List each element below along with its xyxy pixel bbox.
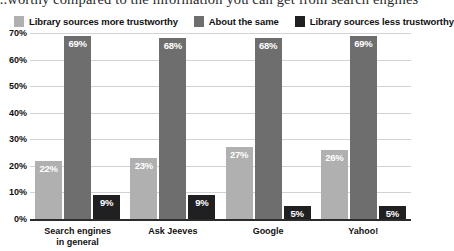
cut-off-caption: ...worthy compared to the information yo… xyxy=(0,0,419,11)
y-axis-tick-label: 40% xyxy=(0,108,27,118)
x-axis-baseline xyxy=(30,219,411,221)
y-axis-tick-label: 70% xyxy=(0,28,27,38)
bar-value-label: 5% xyxy=(290,208,303,219)
bar[interactable]: 23% xyxy=(130,158,157,219)
legend-swatch-icon-0 xyxy=(14,16,24,27)
bar-value-label: 9% xyxy=(100,197,113,208)
bar-group-2: 27%68%5% xyxy=(221,33,316,219)
bar-value-label: 5% xyxy=(386,208,399,219)
bar[interactable]: 26% xyxy=(321,150,348,219)
category-label-2: Google xyxy=(221,226,316,248)
bar[interactable]: 5% xyxy=(284,206,311,219)
legend-item-2[interactable]: Library sources less trustworthy xyxy=(295,16,454,27)
legend-item-1[interactable]: About the same xyxy=(194,16,279,27)
plot-area: 70%60%50%40%30%20%10%0% 22%69%9%23%68%9%… xyxy=(0,33,419,223)
bar-value-label: 23% xyxy=(135,160,153,171)
y-axis-tick-label: 50% xyxy=(0,81,27,91)
bar-value-label: 68% xyxy=(259,40,277,51)
bar[interactable]: 68% xyxy=(159,38,186,219)
bar-value-label: 69% xyxy=(354,38,372,49)
y-axis-tick-label: 20% xyxy=(0,161,27,171)
y-axis-tick-label: 60% xyxy=(0,55,27,65)
bar-groups: 22%69%9%23%68%9%27%68%5%26%69%5% xyxy=(30,33,411,219)
bar[interactable]: 5% xyxy=(379,206,406,219)
y-axis-tick-label: 0% xyxy=(0,214,27,224)
legend-swatch-icon-2 xyxy=(295,16,305,27)
y-axis-tick-label: 30% xyxy=(0,134,27,144)
bar[interactable]: 69% xyxy=(350,36,377,219)
bar[interactable]: 27% xyxy=(226,147,253,219)
chart-legend: Library sources more trustworthyAbout th… xyxy=(0,12,419,30)
bar-value-label: 9% xyxy=(195,197,208,208)
category-label-0: Search engines in general xyxy=(30,226,125,248)
legend-label-1: About the same xyxy=(209,16,279,27)
bar-group-3: 26%69%5% xyxy=(316,33,411,219)
bar-value-label: 69% xyxy=(68,38,86,49)
caption-text: ...worthy compared to the information yo… xyxy=(0,0,418,8)
bar-group-0: 22%69%9% xyxy=(30,33,125,219)
bar-value-label: 22% xyxy=(39,163,57,174)
category-label-3: Yahoo! xyxy=(316,226,411,248)
bar-value-label: 68% xyxy=(164,40,182,51)
legend-item-0[interactable]: Library sources more trustworthy xyxy=(14,16,178,27)
bar-value-label: 26% xyxy=(325,152,343,163)
bar[interactable]: 69% xyxy=(64,36,91,219)
bar[interactable]: 68% xyxy=(255,38,282,219)
bar-value-label: 27% xyxy=(230,149,248,160)
category-label-1: Ask Jeeves xyxy=(125,226,220,248)
y-axis-tick-label: 10% xyxy=(0,187,27,197)
bar[interactable]: 9% xyxy=(93,195,120,219)
legend-swatch-icon-1 xyxy=(194,16,204,27)
bar[interactable]: 9% xyxy=(188,195,215,219)
legend-label-2: Library sources less trustworthy xyxy=(310,16,454,27)
x-axis-categories: Search engines in generalAsk JeevesGoogl… xyxy=(30,226,411,248)
bar[interactable]: 22% xyxy=(35,161,62,219)
legend-label-0: Library sources more trustworthy xyxy=(29,16,178,27)
bar-group-1: 23%68%9% xyxy=(125,33,220,219)
